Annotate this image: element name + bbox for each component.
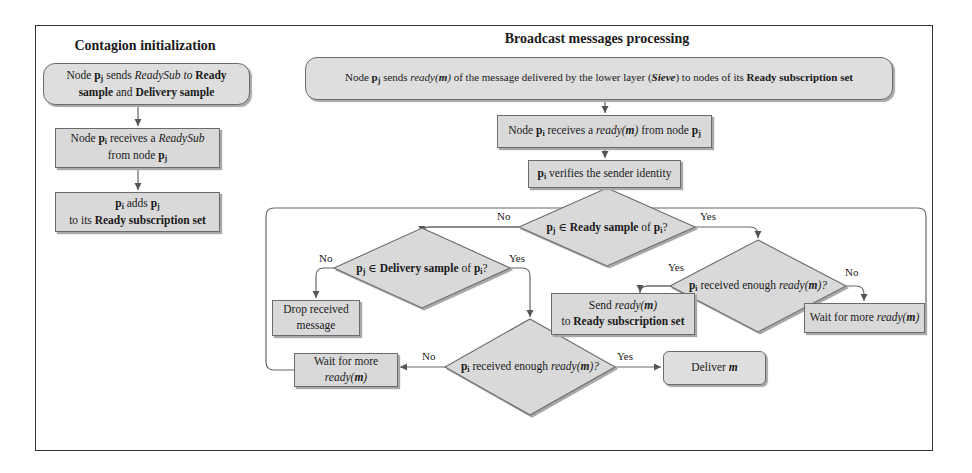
decision-enough-right: pi received enough ready(m)? — [689, 279, 827, 293]
text: to — [561, 315, 573, 327]
bold-term: Ready subscription set — [95, 214, 206, 226]
text: of — [638, 221, 653, 233]
text: Deliver — [691, 361, 728, 373]
decision-ready-sample: pj ∈ Ready sample of pi? — [546, 220, 667, 235]
subscript: j — [165, 154, 168, 163]
box-send-ready: Send ready(m) to Ready subscription set — [551, 293, 695, 335]
broadcast-box-verify-sender: pi verifies the sender identity — [528, 160, 681, 188]
element-of-symbol: ∈ — [365, 262, 379, 274]
text: verifies the sender identity — [546, 167, 671, 179]
box-drop-message: Drop receivedmessage — [272, 300, 360, 336]
text: received enough — [698, 279, 779, 291]
ready-fn: ready( — [596, 124, 626, 136]
text: of the message delivered by the lower la… — [451, 71, 652, 83]
text: ) — [653, 299, 657, 311]
readysub-term: ReadySub — [135, 69, 181, 81]
text: )? — [590, 360, 600, 372]
text: receives a — [107, 132, 158, 144]
label-no: No — [319, 252, 332, 264]
text: adds — [124, 197, 151, 209]
text: Node — [71, 132, 99, 144]
readysub-term: ReadySub — [158, 132, 204, 144]
element-of-symbol: ∈ — [556, 221, 570, 233]
subscript: j — [157, 202, 160, 211]
ready-fn: ready( — [877, 311, 907, 323]
text: ) — [915, 311, 919, 323]
ready-fn: ready( — [615, 299, 645, 311]
label-no: No — [422, 350, 435, 362]
text: message — [297, 319, 336, 331]
text: Node — [66, 69, 94, 81]
ready-fn: ready( — [779, 279, 809, 291]
label-yes: Yes — [617, 350, 633, 362]
bold-term: Delivery sample — [380, 262, 459, 274]
left-box-receive-readysub: Node pi receives a ReadySub from node pj — [55, 128, 220, 168]
bold-term: Ready — [195, 69, 226, 81]
text: )? — [818, 279, 828, 291]
text: sends — [380, 71, 410, 83]
text: ) — [363, 371, 367, 383]
label-yes: Yes — [700, 210, 716, 222]
left-box-send-readysub: Node pj sends ReadySub to Ready sample a… — [43, 63, 250, 105]
text: Send — [589, 299, 615, 311]
bold-term: sample — [79, 86, 114, 98]
box-wait-left: Wait for more ready(m) — [294, 353, 398, 387]
decision-enough-bottom: pi received enough ready(m)? — [461, 360, 599, 374]
text: Wait for more — [314, 355, 378, 367]
text: sends — [103, 69, 134, 81]
text: from node — [638, 124, 691, 136]
label-yes: Yes — [509, 252, 525, 264]
text: ? — [483, 262, 488, 274]
label-no: No — [497, 210, 510, 222]
message-m: m — [626, 124, 635, 136]
bold-term: Delivery sample — [135, 86, 214, 98]
message-m: m — [644, 299, 653, 311]
ready-fn: ready( — [325, 371, 355, 383]
text: Drop received — [283, 303, 348, 315]
text: to — [181, 69, 196, 81]
sieve-term: Sieve — [652, 71, 676, 83]
bold-term: Ready subscription set — [573, 315, 684, 327]
bold-term: Ready subscription set — [747, 71, 853, 83]
left-box-add-subscriber: pi adds pj to its Ready subscription set — [55, 192, 220, 232]
box-wait-right: Wait for more ready(m) — [804, 303, 925, 333]
message-m: m — [581, 360, 590, 372]
text: Wait for more — [810, 311, 877, 323]
text: of — [459, 262, 474, 274]
subscript: j — [698, 129, 701, 138]
decision-delivery-sample: pj ∈ Delivery sample of pi? — [356, 261, 487, 276]
text: and — [113, 86, 135, 98]
text: Node — [508, 124, 536, 136]
ready-fn: ready( — [551, 360, 581, 372]
text: receives a — [545, 124, 596, 136]
message-m: m — [729, 361, 738, 373]
broadcast-box-send-ready: Node pj sends ready(m) of the message de… — [305, 57, 893, 100]
text: received enough — [470, 360, 551, 372]
text: from node — [108, 149, 158, 161]
label-no: No — [845, 266, 858, 278]
broadcast-box-receive-ready: Node pi receives a ready(m) from node pj — [497, 115, 712, 148]
section-title-broadcast: Broadcast messages processing — [505, 31, 690, 47]
box-deliver: Deliver m — [663, 351, 766, 385]
text: ) to nodes of its — [675, 71, 746, 83]
label-yes: Yes — [668, 261, 684, 273]
message-m: m — [809, 279, 818, 291]
text: Node — [345, 71, 372, 83]
section-title-contagion: Contagion initialization — [74, 38, 215, 54]
ready-fn: ready( — [410, 71, 438, 83]
message-m: m — [354, 371, 363, 383]
bold-term: Ready sample — [570, 221, 639, 233]
text: ? — [662, 221, 667, 233]
text: to its — [69, 214, 95, 226]
message-m: m — [439, 71, 448, 83]
